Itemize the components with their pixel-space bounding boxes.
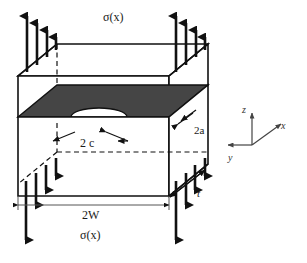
stress-label-top: σ(x) bbox=[103, 11, 123, 23]
thickness-label: t bbox=[197, 188, 200, 199]
crack-depth-label: 2a bbox=[194, 125, 204, 136]
y-axis-label: y bbox=[228, 153, 232, 163]
diagram-canvas bbox=[0, 0, 307, 263]
surface-crack-plate-diagram: σ(x) σ(x) 2W 2 c 2a t z x y bbox=[0, 0, 307, 263]
plate-lower-front-face bbox=[18, 117, 169, 196]
crack-length-label: 2 c bbox=[80, 137, 94, 149]
z-axis-label: z bbox=[242, 105, 246, 115]
x-axis-line bbox=[252, 124, 281, 145]
coordinate-axes bbox=[228, 113, 281, 145]
width-label: 2W bbox=[82, 209, 99, 221]
stress-label-bottom: σ(x) bbox=[80, 229, 100, 241]
x-axis-label: x bbox=[281, 121, 285, 131]
